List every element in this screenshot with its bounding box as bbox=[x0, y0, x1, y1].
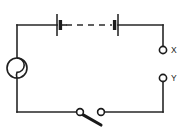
circuit-diagram-canvas: Series battery circuit with source, open… bbox=[0, 0, 189, 136]
switch-lever-arm[interactable] bbox=[81, 114, 101, 125]
knife-switch[interactable] bbox=[77, 109, 105, 125]
battery-cell-right bbox=[115, 14, 118, 36]
circuit-schematic-svg: Series battery circuit with source, open… bbox=[0, 0, 189, 136]
switch-pivot-node[interactable] bbox=[77, 109, 84, 116]
terminal-y-label: Y bbox=[171, 73, 177, 83]
switch-contact-node[interactable] bbox=[98, 109, 105, 116]
terminal-x-node[interactable] bbox=[159, 46, 166, 53]
terminal-y-node[interactable] bbox=[159, 74, 166, 81]
terminal-x-label: X bbox=[171, 45, 177, 55]
battery-cell-left bbox=[57, 14, 60, 36]
